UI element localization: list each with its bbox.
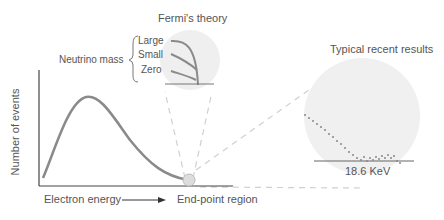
results-bubble: [304, 58, 420, 174]
endpoint-region-label: End-point region: [177, 193, 258, 205]
spectrum-curve: [43, 97, 188, 180]
endpoint-value: 18.6 KeV: [345, 165, 390, 177]
fermi-title: Fermi's theory: [158, 12, 227, 24]
mass-large: Large: [138, 35, 164, 46]
x-axis-label: Electron energy: [44, 193, 121, 205]
endpoint-marker: [183, 174, 195, 186]
mass-zero: Zero: [141, 64, 162, 75]
mass-small: Small: [138, 49, 163, 60]
results-title: Typical recent results: [330, 43, 433, 55]
fermi-bubble: [160, 30, 220, 90]
beta-decay-diagram: [0, 0, 444, 220]
brace: [129, 36, 138, 82]
neutrino-mass-label: Neutrino mass: [59, 54, 123, 65]
y-axis-label: Number of events: [9, 89, 21, 176]
